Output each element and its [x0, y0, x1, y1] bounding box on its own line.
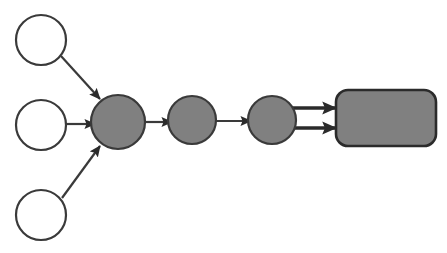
node-output-box[interactable]: [336, 90, 436, 146]
node-input-middle[interactable]: [16, 100, 66, 150]
node-stage-3[interactable]: [248, 96, 296, 144]
node-hub[interactable]: [91, 95, 145, 149]
node-stage-2[interactable]: [168, 96, 216, 144]
diagram-canvas: [0, 0, 447, 253]
node-input-top[interactable]: [16, 15, 66, 65]
diagram-svg: [0, 0, 447, 253]
node-input-bottom[interactable]: [16, 190, 66, 240]
